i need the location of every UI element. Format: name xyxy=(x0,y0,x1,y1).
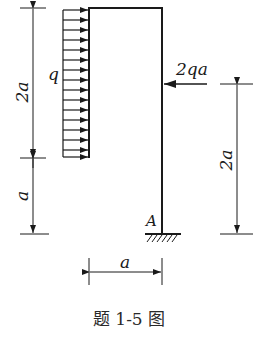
label-bottom-a: a xyxy=(120,252,130,272)
distributed-load xyxy=(63,10,88,157)
label-left-a: a xyxy=(12,191,32,201)
frame xyxy=(88,8,163,234)
label-2qa: 2qa xyxy=(175,59,208,79)
frame-diagram: q 2qa A 2a a 2a a 题 1-5 图 xyxy=(0,0,259,337)
label-left-2a: 2a xyxy=(12,82,32,104)
label-q: q xyxy=(48,64,59,84)
label-A: A xyxy=(144,212,157,230)
label-right-2a: 2a xyxy=(216,150,236,172)
fixed-support-icon xyxy=(145,234,181,242)
figure-caption: 题 1-5 图 xyxy=(93,309,165,329)
